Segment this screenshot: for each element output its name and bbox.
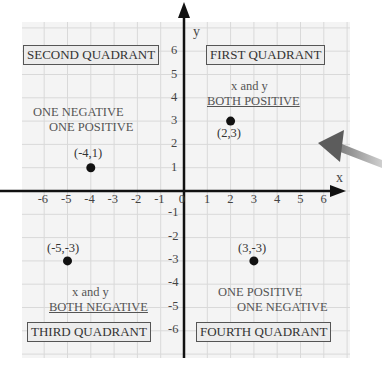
third-quadrant-desc-line2: BOTH NEGATIVE — [49, 300, 148, 314]
y-tick-label: 5 — [171, 67, 177, 82]
plotted-point — [226, 117, 235, 126]
first-quadrant-desc-line1: x and y — [231, 79, 268, 93]
plotted-point — [86, 163, 95, 172]
y-tick-label: 4 — [171, 90, 177, 105]
x-tick-label: -4 — [84, 192, 94, 207]
second-quadrant-desc-line2: ONE POSITIVE — [49, 120, 133, 134]
point-label-3-neg3: (3,-3) — [238, 241, 266, 256]
x-axis-label: x — [336, 170, 343, 186]
y-axis-arrowhead-icon — [178, 2, 190, 18]
x-tick-label: 5 — [297, 192, 303, 207]
first-quadrant-label: FIRST QUADRANT — [206, 45, 325, 65]
x-tick-label: 2 — [227, 192, 233, 207]
x-tick-label: 4 — [274, 192, 280, 207]
fourth-quadrant-desc-line2: ONE NEGATIVE — [237, 300, 328, 314]
fourth-quadrant-label: FOURTH QUADRANT — [196, 322, 331, 342]
y-axis-label: y — [193, 24, 200, 40]
y-tick-label: -3 — [168, 252, 178, 267]
y-tick-label: -4 — [168, 275, 178, 290]
y-tick-label: -5 — [168, 299, 178, 314]
x-tick-label: -3 — [108, 192, 118, 207]
x-tick-label: -5 — [61, 192, 71, 207]
second-quadrant-label: SECOND QUADRANT — [23, 45, 159, 65]
y-tick-label: 2 — [171, 136, 177, 151]
first-quadrant-desc-line2: BOTH POSITIVE — [207, 94, 300, 108]
point-label-neg4-1: (-4,1) — [74, 146, 102, 161]
y-tick-label: 1 — [171, 160, 177, 175]
y-tick-label: 3 — [171, 113, 177, 128]
fourth-quadrant-desc-line1: ONE POSITIVE — [218, 285, 302, 299]
y-tick-label: 6 — [171, 43, 177, 58]
point-label-neg5-neg3: (-5,-3) — [47, 241, 79, 256]
third-quadrant-label: THIRD QUADRANT — [27, 322, 151, 342]
coordinate-plane-diagram: y x -6-5-4-3-2-10123456 123456-1-2-3-4-5… — [0, 0, 382, 378]
plotted-point — [249, 256, 258, 265]
x-tick-label: -1 — [154, 192, 164, 207]
x-tick-label: -6 — [38, 192, 48, 207]
x-tick-label: 0 — [179, 192, 185, 207]
x-tick-label: -2 — [131, 192, 141, 207]
x-tick-label: 3 — [251, 192, 257, 207]
y-tick-label: -1 — [168, 205, 178, 220]
third-quadrant-desc-line1: x and y — [72, 285, 109, 299]
y-tick-label: -2 — [168, 229, 178, 244]
y-tick-label: -6 — [168, 322, 178, 337]
x-tick-label: 6 — [321, 192, 327, 207]
second-quadrant-desc-line1: ONE NEGATIVE — [33, 105, 124, 119]
point-label-2-3: (2,3) — [217, 126, 241, 141]
x-tick-label: 1 — [204, 192, 210, 207]
plotted-point — [63, 256, 72, 265]
